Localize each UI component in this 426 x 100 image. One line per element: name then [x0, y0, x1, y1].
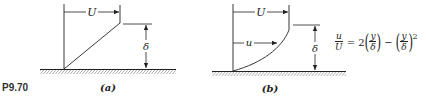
delta-label: δ: [143, 41, 149, 52]
velocity-profile-equation: u U = 2 ( y δ ) − ( y δ ) 2: [334, 32, 417, 52]
U-label: U: [87, 6, 97, 19]
U-label: U: [256, 6, 266, 19]
wall-hatch: [212, 72, 346, 76]
minus-sign: −: [384, 37, 392, 48]
left-paren: (: [395, 32, 400, 52]
wall-hatch: [40, 70, 176, 74]
y-over-delta-fraction: y δ: [369, 32, 376, 52]
right-paren: ): [377, 32, 382, 52]
delta-label: δ: [312, 43, 318, 54]
caption-b: (b): [262, 83, 279, 94]
problem-label: P9.70: [2, 82, 29, 93]
y-over-delta-fraction-2: y δ: [400, 32, 407, 52]
u-over-U-fraction: u U: [335, 32, 343, 52]
equals-sign: =: [347, 37, 355, 48]
caption-a: (a): [100, 82, 116, 93]
u-label: u: [246, 37, 252, 48]
panel-a: U δ (a): [40, 4, 176, 93]
left-paren: (: [364, 32, 369, 52]
linear-profile: [64, 23, 120, 69]
exponent: 2: [412, 32, 417, 41]
panel-b: U u δ (b): [212, 4, 346, 94]
